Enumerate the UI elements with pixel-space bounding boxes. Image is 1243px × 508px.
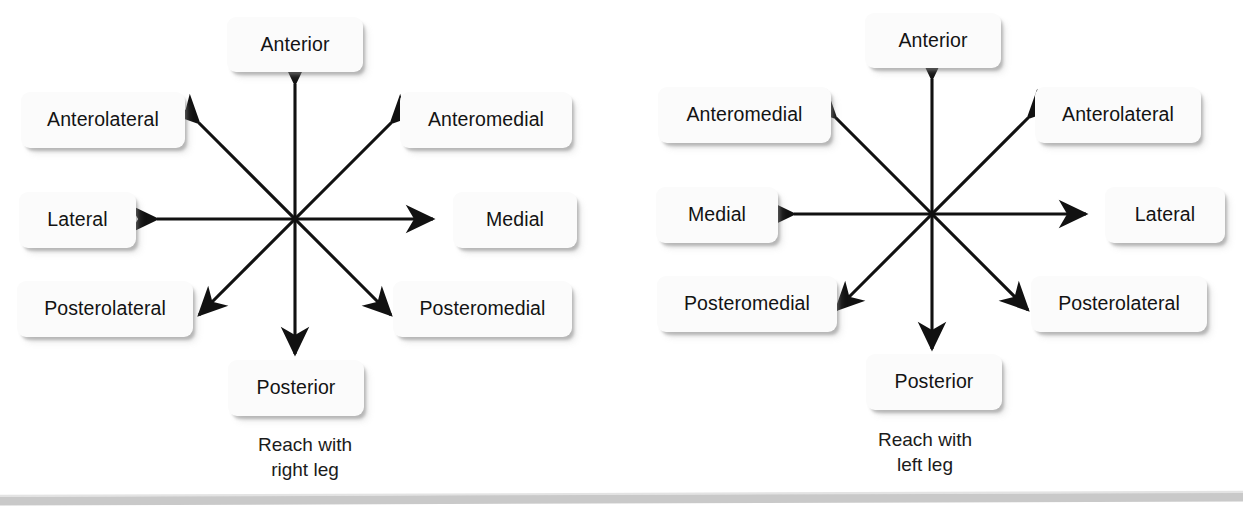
- label-anterolateral: Anterolateral: [21, 92, 185, 148]
- label-posterior: Posterior: [228, 360, 364, 416]
- label-posterior: Posterior: [866, 354, 1002, 410]
- label-lateral: Lateral: [1105, 187, 1225, 243]
- star-diagram-left-leg: Anterior Anterolateral Lateral Posterola…: [620, 0, 1243, 508]
- bottom-divider: [0, 480, 1243, 508]
- label-anterior: Anterior: [865, 13, 1001, 68]
- caption-left-leg: Reach with left leg: [835, 427, 1015, 477]
- label-anteromedial: Anteromedial: [658, 87, 831, 143]
- caption-right-leg: Reach with right leg: [215, 432, 395, 482]
- label-anterior: Anterior: [227, 17, 363, 72]
- label-posterolateral: Posterolateral: [1031, 276, 1207, 332]
- star-diagram-right-leg: Anterior Anteromedial Medial Posteromedi…: [0, 0, 620, 508]
- label-anteromedial: Anteromedial: [400, 92, 572, 148]
- label-posterolateral: Posterolateral: [17, 281, 193, 337]
- label-posteromedial: Posteromedial: [657, 276, 837, 332]
- label-medial: Medial: [656, 187, 778, 243]
- label-lateral: Lateral: [19, 192, 136, 248]
- label-medial: Medial: [453, 192, 577, 248]
- label-anterolateral: Anterolateral: [1035, 87, 1201, 143]
- figure-canvas: Anterior Anteromedial Medial Posteromedi…: [0, 0, 1243, 508]
- label-posteromedial: Posteromedial: [393, 281, 572, 337]
